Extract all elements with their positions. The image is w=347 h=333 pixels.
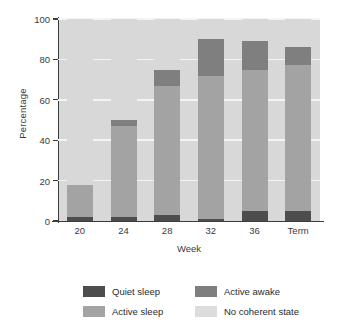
x-tick-label-24: 24 — [118, 225, 129, 236]
x-tick-label-32: 32 — [206, 225, 217, 236]
gridline-100 — [58, 18, 320, 20]
x-tick-label-20: 20 — [75, 225, 86, 236]
bar-segment-quiet-sleep — [111, 217, 137, 221]
bar-segment-active-sleep — [285, 65, 311, 210]
bar-segment-active-awake — [285, 47, 311, 65]
y-axis-title: Percentage — [17, 54, 28, 174]
bar-segment-active-awake — [198, 39, 224, 75]
bar-segment-active-sleep — [67, 185, 93, 217]
bar-segment-no-coherent-state — [67, 19, 93, 185]
gridline-40 — [58, 139, 320, 141]
bar-32 — [198, 19, 224, 221]
bar-24 — [111, 19, 137, 221]
bar-segment-no-coherent-state — [285, 19, 311, 47]
bar-segment-active-awake — [154, 70, 180, 86]
bar-segment-active-sleep — [154, 86, 180, 215]
x-tick-label-Term: Term — [288, 225, 309, 236]
bar-36 — [242, 19, 268, 221]
x-axis-title: Week — [58, 243, 320, 254]
gridline-80 — [58, 59, 320, 61]
legend-swatch-active-awake — [195, 286, 217, 297]
legend-swatch-no-coherent-state — [195, 306, 217, 317]
bar-segment-no-coherent-state — [242, 19, 268, 41]
bar-segment-quiet-sleep — [67, 217, 93, 221]
y-tick-mark-0 — [53, 220, 58, 221]
y-tick-mark-40 — [53, 140, 58, 141]
bar-segment-no-coherent-state — [154, 19, 180, 70]
y-tick-label-100: 100 — [34, 14, 50, 25]
legend-swatch-active-sleep — [83, 306, 105, 317]
legend-label: No coherent state — [224, 306, 299, 317]
bar-segment-active-sleep — [111, 126, 137, 217]
y-tick-label-20: 20 — [39, 175, 50, 186]
y-tick-label-60: 60 — [39, 94, 50, 105]
legend-item-no-coherent-state: No coherent state — [195, 306, 313, 317]
bar-20 — [67, 19, 93, 221]
y-tick-label-0: 0 — [45, 216, 50, 227]
bar-segment-active-sleep — [198, 76, 224, 219]
y-tick-mark-100 — [53, 18, 58, 19]
bar-segment-no-coherent-state — [111, 19, 137, 120]
bar-segment-quiet-sleep — [154, 215, 180, 221]
legend-label: Active sleep — [112, 306, 163, 317]
y-tick-label-40: 40 — [39, 135, 50, 146]
y-tick-mark-80 — [53, 59, 58, 60]
x-tick-label-36: 36 — [249, 225, 260, 236]
legend-item-quiet-sleep: Quiet sleep — [83, 286, 195, 297]
y-tick-mark-20 — [53, 180, 58, 181]
plot-background — [58, 19, 320, 221]
bar-Term — [285, 19, 311, 221]
bar-segment-active-sleep — [242, 70, 268, 211]
legend-swatch-quiet-sleep — [83, 286, 105, 297]
chart-figure: Percentage 020406080100 2024283236Term W… — [0, 0, 347, 333]
legend-item-active-sleep: Active sleep — [83, 306, 195, 317]
y-tick-mark-60 — [53, 99, 58, 100]
plot-area: 020406080100 2024283236Term — [58, 19, 320, 221]
chart-legend: Quiet sleepActive awakeActive sleepNo co… — [83, 281, 313, 321]
gridline-60 — [58, 99, 320, 101]
y-axis-line — [58, 17, 59, 223]
bar-segment-quiet-sleep — [242, 211, 268, 221]
y-tick-label-80: 80 — [39, 54, 50, 65]
bar-segment-active-awake — [242, 41, 268, 69]
legend-item-active-awake: Active awake — [195, 286, 313, 297]
gridline-20 — [58, 180, 320, 182]
bar-28 — [154, 19, 180, 221]
bar-segment-quiet-sleep — [198, 219, 224, 221]
x-tick-label-28: 28 — [162, 225, 173, 236]
bar-segment-no-coherent-state — [198, 19, 224, 39]
bar-segment-quiet-sleep — [285, 211, 311, 221]
legend-label: Active awake — [224, 286, 280, 297]
legend-label: Quiet sleep — [112, 286, 160, 297]
